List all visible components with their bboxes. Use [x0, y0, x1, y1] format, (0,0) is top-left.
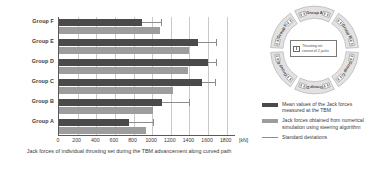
x-tick-label: 1200: [164, 137, 176, 143]
bar-simulation: [59, 87, 173, 94]
error-bar-line: [208, 62, 216, 63]
gridline-200: [78, 17, 79, 135]
legend-item: Jack forces obtained from numerical simu…: [262, 117, 369, 130]
gridline-1600: [208, 17, 209, 135]
x-tick-label: 1800: [220, 137, 232, 143]
bar-simulation: [59, 107, 153, 114]
error-bar-cap: [216, 59, 217, 66]
x-tick-label: 1400: [183, 137, 195, 143]
gridline-1800: [227, 17, 228, 135]
bar-simulation: [59, 47, 189, 54]
thrusting-set-ring-diagram: Group AGroup BGroup CGroup DGroup EGroup…: [262, 4, 367, 96]
ring-center-note: Thrusting set consist of 2 jacks: [290, 40, 337, 57]
y-axis-label: Group B: [32, 98, 54, 104]
x-tick-label: 600: [110, 137, 119, 143]
error-bar-line: [162, 102, 189, 103]
chart-legend: Mean values of the Jack forces measured …: [262, 101, 369, 144]
legend-label: Jack forces obtained from numerical simu…: [282, 117, 369, 130]
gridline-1400: [189, 17, 190, 135]
error-bar-line: [198, 42, 217, 43]
ring-group-label: Group A: [306, 10, 323, 15]
error-bar-line: [129, 122, 153, 123]
error-bar-cap: [189, 99, 190, 106]
y-axis-label: Group F: [32, 18, 54, 24]
plot-area: Group FGroup EGroup DGroup CGroup BGroup…: [58, 17, 235, 136]
jack-pair-icon: [293, 46, 300, 52]
y-axis-label: Group D: [32, 58, 54, 64]
x-tick-label: 400: [91, 137, 100, 143]
legend-swatch-mean: [262, 103, 278, 107]
x-tick-label: 200: [72, 137, 81, 143]
gridline-800: [134, 17, 135, 135]
y-axis-label: Group C: [32, 78, 54, 84]
x-axis-unit: [kN]: [239, 137, 248, 143]
y-axis-label: Group E: [32, 38, 54, 44]
bar-mean: [59, 79, 202, 86]
legend-swatch-sim: [262, 119, 278, 123]
bar-group: Group F: [59, 19, 235, 34]
x-tick-label: 1600: [201, 137, 213, 143]
error-bar-cap: [153, 119, 154, 126]
bar-mean: [59, 119, 129, 126]
bar-chart-panel: Group FGroup EGroup DGroup CGroup BGroup…: [0, 0, 258, 170]
error-bar-cap: [216, 39, 217, 46]
legend-label: Mean values of the Jack forces measured …: [282, 101, 369, 114]
error-bar-cap: [161, 19, 162, 26]
legend-label: Standard deviations: [282, 134, 327, 140]
bar-mean: [59, 99, 162, 106]
bar-mean: [59, 19, 142, 26]
bar-simulation: [59, 127, 146, 134]
gridline-600: [115, 17, 116, 135]
bar-group: Group D: [59, 59, 235, 74]
ring-group-label: Group D: [306, 85, 323, 90]
y-axis-label: Group A: [32, 118, 54, 124]
bar-simulation: [59, 67, 188, 74]
error-bar-cap: [215, 79, 216, 86]
gridline-1200: [171, 17, 172, 135]
x-tick-label: 0: [57, 137, 60, 143]
bar-mean: [59, 59, 208, 66]
legend-item: Standard deviations: [262, 134, 369, 140]
x-axis-title: Jack forces of individual thrusting set …: [0, 148, 258, 154]
legend-swatch-std: [262, 137, 278, 138]
legend-item: Mean values of the Jack forces measured …: [262, 101, 369, 114]
x-tick-label: 1000: [145, 137, 157, 143]
bar-group: Group A: [59, 119, 235, 134]
error-bar-line: [142, 22, 161, 23]
x-tick-label: 800: [128, 137, 137, 143]
ring-center-note-text: Thrusting set consist of 2 jacks: [302, 44, 334, 53]
error-bar-line: [202, 82, 214, 83]
bar-group: Group E: [59, 39, 235, 54]
bar-group: Group C: [59, 79, 235, 94]
bar-simulation: [59, 27, 160, 34]
bar-group: Group B: [59, 99, 235, 114]
bar-mean: [59, 39, 198, 46]
gridline-1000: [152, 17, 153, 135]
figure-root: Group FGroup EGroup DGroup CGroup BGroup…: [0, 0, 371, 170]
gridline-400: [96, 17, 97, 135]
x-axis-ticks: 020040060080010001200140016001800: [58, 137, 235, 146]
